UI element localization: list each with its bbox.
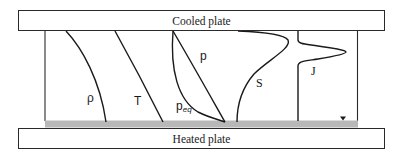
cooled-plate: Cooled plate xyxy=(18,10,385,31)
cooled-plate-label: Cooled plate xyxy=(172,15,230,27)
J-label: J xyxy=(311,65,316,77)
marker-triangle-icon xyxy=(340,117,346,121)
heated-layer xyxy=(45,121,358,128)
p-label: p xyxy=(200,50,207,62)
diffusion-cloud-chamber-diagram: Cooled plate Heated plate ρ T p peq S J xyxy=(0,0,402,157)
rho-label: ρ xyxy=(87,92,94,104)
p-eq-label: peq xyxy=(176,100,192,114)
rho-curve xyxy=(66,31,106,122)
heated-plate: Heated plate xyxy=(18,128,385,149)
T-label: T xyxy=(134,95,141,107)
S-curve xyxy=(237,31,288,122)
J-curve xyxy=(298,31,346,121)
heated-plate-label: Heated plate xyxy=(173,133,231,145)
S-label: S xyxy=(256,77,263,89)
p-eq-label-main: p xyxy=(176,99,183,113)
p-eq-label-sub: eq xyxy=(183,105,192,114)
T-curve xyxy=(115,31,163,122)
